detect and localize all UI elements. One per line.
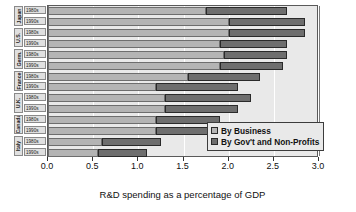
chart-legend: By Business By Gov't and Non-Profits [207, 122, 324, 151]
legend-item-government[interactable]: By Gov't and Non-Profits [211, 136, 319, 147]
bar-segment-government[interactable] [156, 83, 237, 91]
legend-label-government: By Gov't and Non-Profits [221, 137, 319, 147]
value-axis: 0.00.51.01.52.02.53.0 [47, 157, 318, 175]
bar-segment-business[interactable] [48, 116, 156, 124]
bar-row [48, 105, 319, 113]
bar-row [48, 51, 319, 59]
country-label-canada: Canada [14, 115, 23, 135]
bar-segment-business[interactable] [48, 29, 229, 37]
rd-spending-bar-chart: 1980s1990s1980s1990s1980s1990s1980s1990s… [0, 0, 356, 212]
legend-swatch-government [211, 138, 218, 145]
decade-label-italy-1980s: 1980s [24, 137, 46, 145]
legend-label-business: By Business [221, 126, 271, 136]
bar-row [48, 7, 319, 15]
bar-segment-government[interactable] [102, 138, 161, 146]
country-label-text: Canada [16, 115, 22, 134]
country-label-italy: Italy [14, 136, 23, 156]
bar-row [48, 40, 319, 48]
country-label-france: France [14, 71, 23, 91]
bar-segment-business[interactable] [48, 127, 156, 135]
decade-label-italy-1990s: 1990s [24, 148, 46, 156]
x-axis-title: R&D spending as a percentage of GDP [47, 189, 318, 200]
legend-item-business[interactable]: By Business [211, 125, 319, 136]
bar-segment-business[interactable] [48, 149, 98, 157]
bar-row [48, 94, 319, 102]
decade-label-uk-1990s: 1990s [24, 104, 46, 112]
bar-row [48, 83, 319, 91]
country-label-text: Japan [16, 8, 22, 23]
bar-segment-business[interactable] [48, 105, 165, 113]
country-label-germ: Germ. [14, 49, 23, 69]
decade-label-france-1990s: 1990s [24, 82, 46, 90]
bar-row [48, 18, 319, 26]
x-tick-label-0.5: 0.5 [86, 161, 99, 171]
bar-row [48, 29, 319, 37]
bar-segment-business[interactable] [48, 94, 165, 102]
bar-segment-business[interactable] [48, 51, 224, 59]
decade-label-germ-1980s: 1980s [24, 50, 46, 58]
category-axis: 1980s1990s1980s1990s1980s1990s1980s1990s… [0, 5, 47, 157]
country-label-text: France [16, 72, 22, 89]
decade-label-canada-1990s: 1990s [24, 126, 46, 134]
country-label-text: Germ. [16, 52, 22, 67]
x-tick-label-1.0: 1.0 [131, 161, 144, 171]
decade-label-france-1980s: 1980s [24, 72, 46, 80]
x-tick-label-2.0: 2.0 [221, 161, 234, 171]
bar-segment-business[interactable] [48, 7, 206, 15]
x-tick-label-1.5: 1.5 [176, 161, 189, 171]
x-tick-label-0.0: 0.0 [41, 161, 54, 171]
bar-segment-government[interactable] [165, 105, 237, 113]
bar-segment-government[interactable] [98, 149, 148, 157]
country-label-uk: U.K. [14, 93, 23, 113]
bar-segment-government[interactable] [220, 40, 288, 48]
x-tick-label-2.5: 2.5 [267, 161, 280, 171]
bar-segment-business[interactable] [48, 73, 188, 81]
country-label-text: Italy [16, 141, 22, 151]
decade-label-japan-1980s: 1980s [24, 6, 46, 14]
bar-segment-business[interactable] [48, 40, 220, 48]
bar-row [48, 62, 319, 70]
decade-label-germ-1990s: 1990s [24, 61, 46, 69]
country-label-text: U.K. [16, 98, 22, 108]
decade-label-canada-1980s: 1980s [24, 115, 46, 123]
bar-segment-business[interactable] [48, 18, 229, 26]
bar-segment-government[interactable] [206, 7, 287, 15]
decade-label-us-1980s: 1980s [24, 28, 46, 36]
country-label-us: U.S. [14, 28, 23, 48]
bar-segment-government[interactable] [220, 62, 283, 70]
bar-segment-business[interactable] [48, 62, 220, 70]
decade-label-japan-1990s: 1990s [24, 17, 46, 25]
country-label-text: U.S. [16, 33, 22, 43]
bar-segment-government[interactable] [229, 29, 306, 37]
bar-segment-government[interactable] [229, 18, 306, 26]
bar-segment-government[interactable] [188, 73, 260, 81]
bar-segment-government[interactable] [224, 51, 287, 59]
x-tick-label-3.0: 3.0 [312, 161, 325, 171]
bar-segment-business[interactable] [48, 83, 156, 91]
bar-segment-business[interactable] [48, 138, 102, 146]
decade-label-us-1990s: 1990s [24, 39, 46, 47]
country-label-japan: Japan [14, 6, 23, 26]
legend-swatch-business [211, 127, 218, 134]
decade-label-uk-1980s: 1980s [24, 93, 46, 101]
bar-segment-government[interactable] [165, 94, 251, 102]
bar-row [48, 73, 319, 81]
